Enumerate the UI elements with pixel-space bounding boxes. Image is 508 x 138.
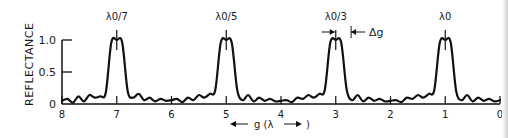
- x-tick-label: 7: [114, 109, 120, 120]
- arrowhead-icon: [351, 29, 356, 35]
- x-tick-label: 8: [59, 109, 65, 120]
- arrow-left-icon: [230, 121, 236, 127]
- x-tick-label: 2: [387, 109, 393, 120]
- peak-label: λ0/7: [106, 11, 128, 22]
- x-tick-label: 5: [223, 109, 229, 120]
- x-tick-label: 3: [333, 109, 339, 120]
- x-label-close: ): [306, 119, 310, 130]
- x-tick-label: 6: [168, 109, 174, 120]
- peak-label: λ0/5: [215, 11, 237, 22]
- reflectance-chart: 00.51.0876543210 λ0/7λ0/5λ0/3λ0 Δg REFLE…: [0, 0, 508, 138]
- x-tick-label: 1: [442, 109, 448, 120]
- x-label-text: g (λ: [254, 119, 273, 130]
- delta-g-label: Δg: [369, 26, 384, 39]
- y-tick-label: 0.5: [39, 66, 57, 79]
- peak-label: λ0/3: [325, 11, 347, 22]
- y-tick-label: 0: [49, 98, 56, 111]
- chart-svg: 00.51.0876543210 λ0/7λ0/5λ0/3λ0 Δg REFLE…: [0, 0, 508, 138]
- reflectance-curve: [62, 38, 500, 103]
- y-tick-label: 1.0: [39, 34, 57, 47]
- y-axis-label: REFLECTANCE: [23, 23, 36, 106]
- x-axis-label: g (λ): [230, 119, 310, 130]
- peak-labels: λ0/7λ0/5λ0/3λ0: [106, 11, 452, 50]
- arrowhead-icon: [330, 29, 335, 35]
- arrow-right-icon: [296, 121, 302, 127]
- scan-edge: [502, 0, 508, 138]
- delta-g-annotation: Δg: [322, 26, 384, 39]
- peak-label: λ0: [439, 11, 451, 22]
- x-tick-label: 4: [278, 109, 284, 120]
